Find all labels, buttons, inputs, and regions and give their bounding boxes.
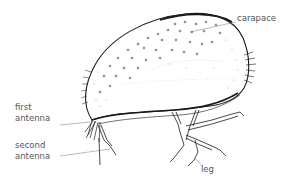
first-antenna-drawing	[85, 120, 100, 142]
ostracod-diagram: carapace first antenna second antenna le…	[0, 0, 288, 189]
first-antenna-label-line2: antenna	[15, 113, 50, 124]
legs-drawing	[170, 110, 244, 166]
first-antenna-label-line1: first	[15, 102, 32, 113]
second-antenna-leader-line	[60, 149, 110, 156]
first-antenna-leader-line	[60, 122, 90, 125]
second-antenna-drawing	[98, 125, 116, 165]
leg-label: leg	[201, 164, 214, 175]
second-antenna-label-line1: second	[15, 140, 45, 151]
carapace-label: carapace	[237, 13, 276, 24]
second-antenna-label-line2: antenna	[15, 151, 50, 162]
